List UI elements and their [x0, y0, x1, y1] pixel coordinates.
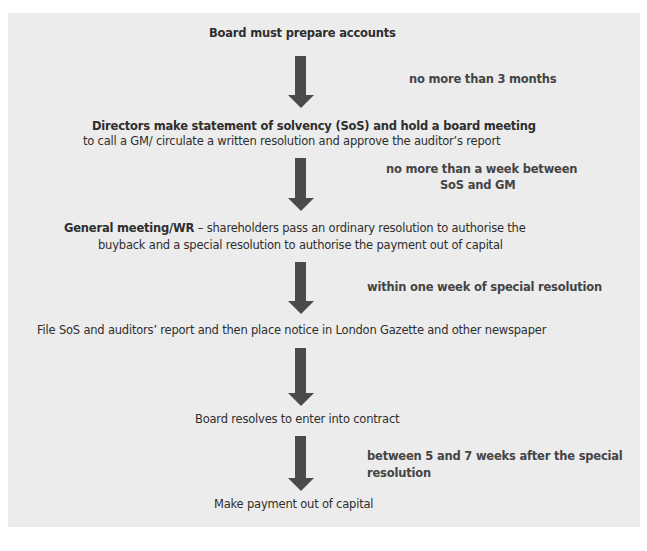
step-general-meeting-title: General meeting/WR: [64, 221, 194, 235]
arrow-label-5-line1: between 5 and 7 weeks after the special: [367, 449, 623, 463]
arrow-down-icon: [288, 262, 314, 314]
arrow-down-icon: [288, 436, 314, 491]
step-general-meeting-detail-line2: buyback and a special resolution to auth…: [98, 238, 503, 252]
step-file-sos: File SoS and auditors’ report and then p…: [37, 323, 546, 337]
arrow-label-2-line2: SoS and GM: [440, 178, 516, 192]
arrow-label-5-line2: resolution: [367, 466, 431, 480]
arrow-label-2-line1: no more than a week between: [386, 162, 577, 176]
step-board-resolves: Board resolves to enter into contract: [195, 412, 399, 426]
arrow-label-3: within one week of special resolution: [367, 280, 602, 294]
step-board-prepare-accounts: Board must prepare accounts: [209, 26, 396, 40]
step-general-meeting: General meeting/WR – shareholders pass a…: [64, 221, 526, 235]
arrow-down-icon: [288, 348, 314, 406]
arrow-label-1: no more than 3 months: [409, 72, 557, 86]
arrow-down-icon: [288, 56, 314, 108]
step-directors-statement: Directors make statement of solvency (So…: [92, 119, 536, 133]
step-directors-statement-detail: to call a GM/ circulate a written resolu…: [83, 134, 500, 148]
step-make-payment: Make payment out of capital: [214, 497, 373, 511]
arrow-down-icon: [288, 158, 314, 211]
step-general-meeting-detail: – shareholders pass an ordinary resoluti…: [194, 221, 525, 235]
